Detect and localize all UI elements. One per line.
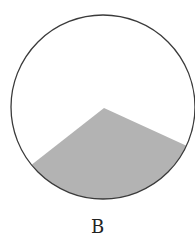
figure-label: B xyxy=(0,218,195,233)
circle-diagram xyxy=(0,0,195,233)
